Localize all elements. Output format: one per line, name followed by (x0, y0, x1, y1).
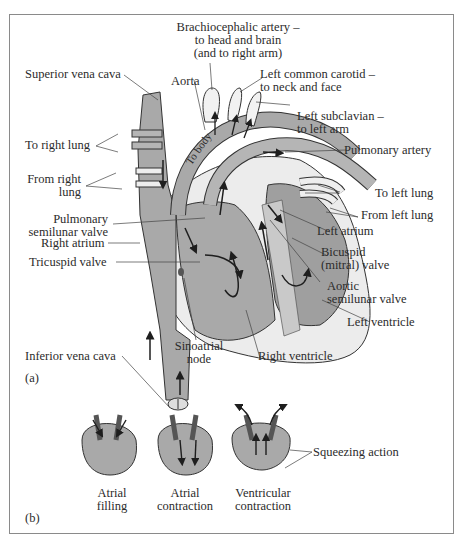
panel-b-tag: (b) (25, 512, 40, 525)
label-bicuspid-valve: Bicuspid (mitral) valve (321, 246, 389, 272)
label-line: filling (82, 500, 142, 513)
label-line: to left arm (297, 123, 384, 136)
label-line: semilunar valve (327, 293, 407, 306)
label-line: contraction (228, 500, 298, 513)
label-stage-ventricular-contraction: Ventricular contraction (228, 487, 298, 513)
label-aorta: Aorta (171, 75, 199, 88)
label-to-right-lung: To right lung (25, 139, 90, 152)
label-left-common-carotid: Left common carotid – to neck and face (260, 68, 375, 94)
label-from-left-lung: From left lung (361, 209, 433, 222)
label-line: to neck and face (260, 81, 375, 94)
label-left-ventricle: Left ventricle (347, 316, 415, 329)
label-left-atrium: Left atrium (317, 225, 374, 238)
label-line: node (169, 353, 229, 366)
label-stage-atrial-contraction: Atrial contraction (152, 487, 218, 513)
label-tricuspid-valve: Tricuspid valve (29, 256, 107, 269)
label-squeezing-action: Squeezing action (313, 446, 399, 459)
label-to-left-lung: To left lung (375, 187, 433, 200)
label-line: (mitral) valve (321, 259, 389, 272)
label-sinoatrial-node: Sinoatrial node (169, 340, 229, 366)
label-inferior-vena-cava: Inferior vena cava (25, 350, 116, 363)
heart-diagram-illustration (0, 0, 470, 547)
label-line: (and to right arm) (145, 47, 331, 60)
label-brachiocephalic: Brachiocephalic artery – to head and bra… (145, 21, 331, 60)
label-superior-vena-cava: Superior vena cava (25, 68, 121, 81)
label-line: contraction (152, 500, 218, 513)
label-left-subclavian: Left subclavian – to left arm (297, 110, 384, 136)
label-aortic-semilunar-valve: Aortic semilunar valve (327, 280, 407, 306)
label-right-ventricle: Right ventricle (258, 350, 333, 363)
label-pulmonary-artery: Pulmonary artery (344, 144, 431, 157)
label-stage-atrial-filling: Atrial filling (82, 487, 142, 513)
label-line: lung (25, 186, 81, 199)
label-right-atrium: Right atrium (41, 237, 105, 250)
label-from-right-lung: From right lung (25, 173, 81, 199)
panel-a-tag: (a) (25, 372, 39, 385)
